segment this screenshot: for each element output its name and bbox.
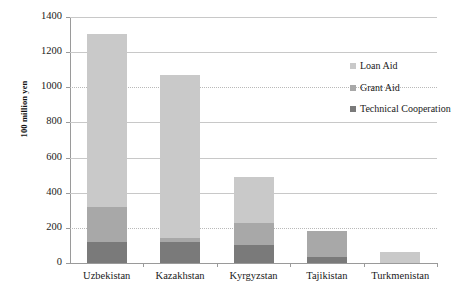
bar-segment-loan-aid[interactable]: [380, 252, 420, 263]
legend-label-loan-aid: Loan Aid: [360, 60, 398, 72]
bar-segment-grant-aid[interactable]: [87, 207, 127, 242]
bar-segment-grant-aid[interactable]: [160, 238, 200, 242]
bar-segment-grant-aid[interactable]: [234, 223, 274, 246]
plot-area: [70, 17, 437, 263]
bar-segment-grant-aid[interactable]: [307, 231, 347, 256]
y-axis-tick-label: 200: [2, 222, 62, 233]
bar-segment-technical-cooperation[interactable]: [307, 257, 347, 263]
legend-item-loan-aid: Loan Aid: [350, 60, 454, 72]
bar-group[interactable]: [234, 17, 274, 263]
bar-group[interactable]: [307, 17, 347, 263]
bar-segment-loan-aid[interactable]: [234, 177, 274, 223]
y-axis-tick-label: 400: [2, 187, 62, 198]
legend-label-technical-cooperation: Technical Cooperation: [360, 103, 451, 115]
y-axis-tick-label: 800: [2, 116, 62, 127]
x-axis-tick-mark: [437, 263, 438, 267]
x-axis-tick-mark: [290, 263, 291, 267]
legend-swatch-grant-aid: [350, 85, 356, 91]
y-axis-tick-label: 1000: [2, 81, 62, 92]
x-axis-tick-mark: [217, 263, 218, 267]
bar-group[interactable]: [160, 17, 200, 263]
x-axis-tick-mark: [143, 263, 144, 267]
y-axis-tick-mark: [66, 122, 70, 123]
legend-swatch-loan-aid: [350, 63, 356, 69]
x-axis-label-turkmenistan: Turkmenistan: [345, 270, 454, 282]
bar-segment-technical-cooperation[interactable]: [234, 245, 274, 263]
y-axis-tick-mark: [66, 17, 70, 18]
y-axis-tick-label: 1200: [2, 46, 62, 57]
y-axis-tick-mark: [66, 158, 70, 159]
legend-label-grant-aid: Grant Aid: [360, 82, 400, 94]
chart-legend: Loan Aid Grant Aid Technical Cooperation: [350, 60, 454, 125]
y-axis-tick-mark: [66, 193, 70, 194]
bar-group[interactable]: [87, 17, 127, 263]
bar-segment-loan-aid[interactable]: [160, 75, 200, 238]
bar-segment-loan-aid[interactable]: [87, 34, 127, 207]
y-axis-tick-mark: [66, 52, 70, 53]
y-axis-tick-mark: [66, 263, 70, 264]
y-axis-tick-label: 600: [2, 152, 62, 163]
y-axis-tick-label: 1400: [2, 11, 62, 22]
x-axis-tick-mark: [364, 263, 365, 267]
legend-item-technical-cooperation: Technical Cooperation: [350, 103, 454, 115]
legend-swatch-technical-cooperation: [350, 106, 356, 112]
bar-segment-technical-cooperation[interactable]: [87, 242, 127, 263]
bar-group[interactable]: [380, 17, 420, 263]
legend-item-grant-aid: Grant Aid: [350, 82, 454, 94]
y-axis-tick-mark: [66, 87, 70, 88]
y-axis-tick-mark: [66, 228, 70, 229]
y-axis-tick-label: 0: [2, 257, 62, 268]
x-axis-line: [70, 263, 438, 264]
stacked-bar-chart: 100 million yen Loan Aid Grant Aid Techn…: [0, 0, 454, 300]
bar-segment-technical-cooperation[interactable]: [160, 242, 200, 263]
